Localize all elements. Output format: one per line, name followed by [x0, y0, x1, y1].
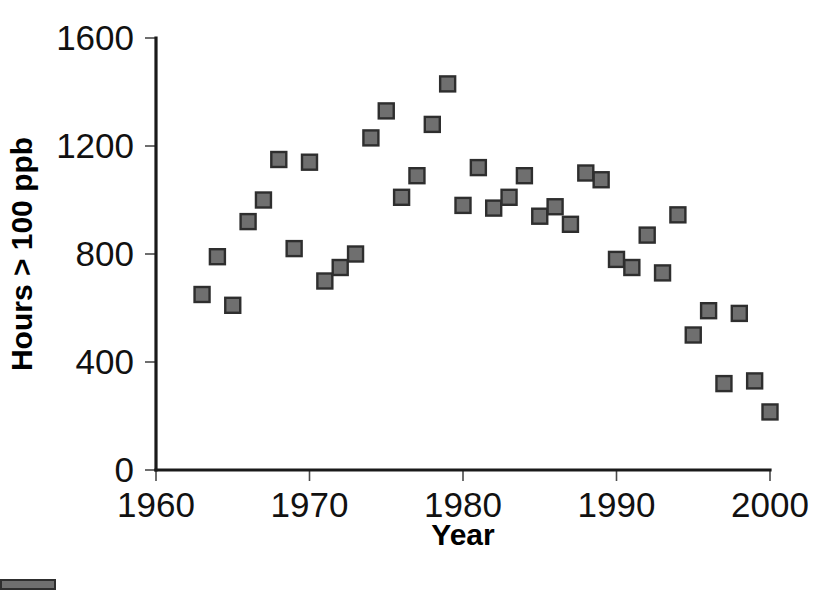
- x-tick-label: 2000: [731, 485, 809, 524]
- x-tick-label: 1970: [271, 485, 349, 524]
- data-point: [716, 376, 731, 391]
- data-point: [195, 287, 210, 302]
- data-point: [210, 249, 225, 264]
- data-point: [363, 130, 378, 145]
- data-point: [640, 228, 655, 243]
- data-point: [302, 155, 317, 170]
- y-tick-label: 1600: [56, 18, 134, 57]
- data-point: [456, 198, 471, 213]
- scatter-chart: 040080012001600 19601970198019902000 Yea…: [0, 0, 826, 590]
- x-axis-title: Year: [431, 518, 495, 551]
- y-tick-label: 0: [115, 450, 134, 489]
- data-point: [686, 328, 701, 343]
- data-point: [486, 201, 501, 216]
- y-tick-label: 400: [76, 342, 134, 381]
- data-point: [594, 172, 609, 187]
- x-tick-label: 1960: [117, 485, 195, 524]
- data-point: [287, 241, 302, 256]
- data-point: [655, 265, 670, 280]
- data-point: [732, 306, 747, 321]
- data-point: [502, 190, 517, 205]
- legend-swatch: [0, 579, 56, 590]
- data-point: [379, 103, 394, 118]
- x-tick-label: 1990: [578, 485, 656, 524]
- data-point: [440, 76, 455, 91]
- data-point: [425, 117, 440, 132]
- data-point: [563, 217, 578, 232]
- data-point: [548, 199, 563, 214]
- data-point: [394, 190, 409, 205]
- data-point: [747, 373, 762, 388]
- data-point: [517, 168, 532, 183]
- data-point: [241, 214, 256, 229]
- data-point: [409, 168, 424, 183]
- data-point: [532, 209, 547, 224]
- data-point: [225, 298, 240, 313]
- data-point: [763, 404, 778, 419]
- data-point: [348, 247, 363, 262]
- data-point: [256, 193, 271, 208]
- data-point: [701, 303, 716, 318]
- data-point: [578, 166, 593, 181]
- data-point: [670, 207, 685, 222]
- chart-canvas: 040080012001600 19601970198019902000 Yea…: [0, 0, 826, 590]
- data-point: [624, 260, 639, 275]
- y-tick-label: 800: [76, 234, 134, 273]
- data-point: [471, 160, 486, 175]
- y-tick-label: 1200: [56, 126, 134, 165]
- data-point: [271, 152, 286, 167]
- y-axis-title: Hours > 100 ppb: [5, 137, 38, 371]
- data-point: [317, 274, 332, 289]
- data-point: [609, 252, 624, 267]
- data-point: [333, 260, 348, 275]
